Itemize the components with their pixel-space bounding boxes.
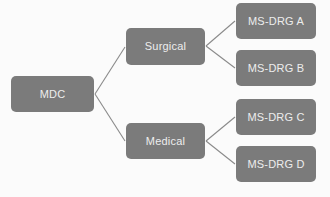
node-mdc-label: MDC: [40, 89, 66, 100]
node-msdrg-b[interactable]: MS-DRG B: [236, 50, 316, 86]
diagram-canvas: MDC Surgical Medical MS-DRG A MS-DRG B M…: [0, 0, 330, 197]
node-msdrg-c-label: MS-DRG C: [247, 112, 304, 123]
node-msdrg-a[interactable]: MS-DRG A: [236, 3, 316, 39]
node-medical-label: Medical: [146, 136, 185, 147]
node-msdrg-d[interactable]: MS-DRG D: [236, 146, 316, 182]
node-surgical-label: Surgical: [145, 41, 186, 52]
edge-mdc-medical: [95, 94, 125, 141]
edge-surgical-msdrg-a: [206, 21, 235, 46]
edge-medical-msdrg-d: [206, 141, 235, 164]
edge-surgical-msdrg-b: [206, 46, 235, 68]
node-msdrg-c[interactable]: MS-DRG C: [236, 99, 316, 135]
edge-mdc-surgical: [95, 47, 125, 94]
node-mdc[interactable]: MDC: [11, 76, 94, 112]
node-medical[interactable]: Medical: [126, 123, 205, 159]
node-msdrg-b-label: MS-DRG B: [248, 63, 305, 74]
edge-medical-msdrg-c: [206, 117, 235, 141]
node-msdrg-d-label: MS-DRG D: [247, 159, 304, 170]
node-surgical[interactable]: Surgical: [126, 28, 205, 65]
node-msdrg-a-label: MS-DRG A: [248, 16, 304, 27]
